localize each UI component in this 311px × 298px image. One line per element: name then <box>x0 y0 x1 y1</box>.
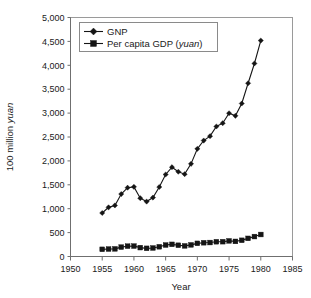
x-axis-tick-label: 1985 <box>282 264 302 274</box>
y-axis-title: 100 million yuan <box>4 103 15 172</box>
data-point-marker <box>239 238 244 243</box>
x-axis-tick-label: 1950 <box>60 264 80 274</box>
data-point-marker <box>151 246 156 251</box>
gnp-per-capita-gdp-line-chart: 05001,0001,5002,0002,5003,0003,5004,0004… <box>0 0 311 298</box>
data-point-marker <box>113 246 118 251</box>
data-point-marker <box>227 238 232 243</box>
data-point-marker <box>239 101 244 106</box>
data-point-marker <box>226 111 231 116</box>
y-axis-tick-label: 4,500 <box>42 37 65 47</box>
data-point-marker <box>201 240 206 245</box>
data-point-marker <box>246 236 251 241</box>
data-point-marker <box>258 232 263 237</box>
y-axis: 05001,0001,5002,0002,5003,0003,5004,0004… <box>42 13 71 262</box>
data-point-marker <box>125 244 130 249</box>
data-point-marker <box>252 61 257 66</box>
y-axis-tick-label: 4,000 <box>42 61 65 71</box>
x-axis-title: Year <box>171 281 190 292</box>
y-axis-tick-label: 2,000 <box>42 156 65 166</box>
data-point-marker <box>182 172 187 177</box>
y-axis-tick-label: 3,500 <box>42 84 65 94</box>
y-axis-tick-label: 0 <box>59 252 64 262</box>
data-point-marker <box>188 161 193 166</box>
x-axis: 19501955196019651970197519801985 <box>60 257 302 274</box>
data-point-marker <box>208 240 213 245</box>
data-series-group <box>100 38 264 252</box>
y-axis-tick-labels: 05001,0001,5002,0002,5003,0003,5004,0004… <box>42 13 65 262</box>
x-axis-tick-label: 1980 <box>251 264 271 274</box>
x-axis-ticks <box>71 257 293 261</box>
legend-label-per-capita-gdp: Per capita GDP (yuan) <box>107 38 202 49</box>
y-axis-tick-label: 5,000 <box>42 13 65 23</box>
series-per-capita-gdp <box>100 232 263 252</box>
data-point-marker <box>233 239 238 244</box>
data-point-marker <box>220 239 225 244</box>
y-axis-tick-label: 1,500 <box>42 180 65 190</box>
data-point-marker <box>233 113 238 118</box>
square-marker-icon <box>91 41 97 47</box>
legend-label-gnp: GNP <box>107 26 128 37</box>
data-point-marker <box>138 196 143 201</box>
x-axis-tick-label: 1975 <box>219 264 239 274</box>
x-axis-tick-labels: 19501955196019651970197519801985 <box>60 264 302 274</box>
data-point-marker <box>189 242 194 247</box>
data-point-marker <box>144 199 149 204</box>
x-axis-tick-label: 1965 <box>156 264 176 274</box>
data-point-marker <box>157 184 162 189</box>
plot-area-border <box>71 18 293 257</box>
y-axis-tick-label: 1,000 <box>42 204 65 214</box>
data-point-marker <box>176 243 181 248</box>
data-point-marker <box>252 234 257 239</box>
x-axis-tick-label: 1970 <box>187 264 207 274</box>
data-point-marker <box>195 241 200 246</box>
data-point-marker <box>214 239 219 244</box>
data-point-marker <box>157 244 162 249</box>
data-point-marker <box>131 184 136 189</box>
data-point-marker <box>150 195 155 200</box>
data-point-marker <box>220 121 225 126</box>
data-point-marker <box>112 203 117 208</box>
data-point-marker <box>163 243 168 248</box>
data-point-marker <box>182 243 187 248</box>
chart-legend: GNP Per capita GDP (yuan) <box>80 23 218 52</box>
data-point-marker <box>100 247 105 252</box>
y-axis-tick-label: 500 <box>49 228 64 238</box>
y-axis-tick-label: 2,500 <box>42 132 65 142</box>
x-axis-tick-label: 1960 <box>124 264 144 274</box>
data-point-marker <box>132 244 137 249</box>
data-point-marker <box>258 38 263 43</box>
data-point-marker <box>170 242 175 247</box>
y-axis-tick-label: 3,000 <box>42 108 65 118</box>
data-point-marker <box>106 247 111 252</box>
data-point-marker <box>246 81 251 86</box>
x-axis-tick-label: 1955 <box>92 264 112 274</box>
data-point-marker <box>144 246 149 251</box>
series-gnp <box>100 38 264 216</box>
data-point-marker <box>119 245 124 250</box>
data-point-marker <box>138 245 143 250</box>
chart-figure: 05001,0001,5002,0002,5003,0003,5004,0004… <box>0 0 311 298</box>
